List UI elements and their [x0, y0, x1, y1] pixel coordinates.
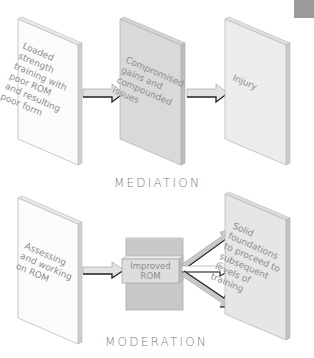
mediation-title: MEDIATION	[114, 176, 201, 190]
mediation-panel-1: Loaded strength training with poor ROM a…	[0, 17, 82, 165]
moderation-panel-2: Solid foundations to proceed to subseque…	[209, 192, 291, 340]
svg-text:Improved: Improved	[130, 261, 170, 271]
moderation-panel-1: Assessing and working on ROM	[14, 196, 82, 344]
arrow-right-icon	[83, 262, 124, 278]
moderation-title: MODERATION	[105, 335, 208, 349]
svg-text:ROM: ROM	[141, 271, 161, 281]
mediation-panel-2: Compromised gains and compounded issues	[111, 17, 185, 165]
corner-tab	[294, 0, 314, 18]
mediation-panel-3: Injury	[225, 17, 290, 165]
arrow-right-icon	[187, 84, 228, 102]
improved-rom-box: Improved ROM	[122, 238, 183, 310]
